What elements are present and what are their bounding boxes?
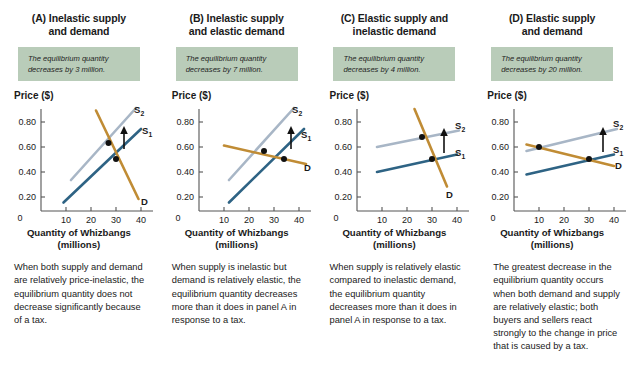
panel-c-equilibrium-before-tax <box>429 156 435 162</box>
panel-c-s2-sub: 2 <box>461 126 465 133</box>
panel-a-equilibrium-before-tax <box>113 156 119 162</box>
panel-a-title: (A) Inelastic supply and demand <box>24 12 134 38</box>
panel-c-s2-label: S <box>455 120 461 131</box>
panel-a-ytick-080: 0.80 <box>18 117 36 127</box>
panel-c-demand-label: D <box>446 189 453 200</box>
panel-b-xtick-30: 30 <box>269 215 279 225</box>
panel-c-ytick-060: 0.60 <box>334 142 352 152</box>
panel-a-origin-label: 0 <box>17 213 22 223</box>
panel-c-equilibrium-after-tax <box>419 134 425 140</box>
panel-a-s2-label: S <box>134 104 140 115</box>
panel-b-title-line1: (B) Inelastic supply <box>189 12 283 24</box>
panel-c-xtick-40: 40 <box>451 215 461 225</box>
panel-c-callout: The equilibrium quantity decreases by 4 … <box>333 47 455 81</box>
panel-a-ytick-040: 0.40 <box>18 167 36 177</box>
panel-b-ytick-020: 0.20 <box>176 192 194 202</box>
panel-a-xtick-30: 30 <box>111 215 121 225</box>
panel-c-callout-line2: decreases by 4 million. <box>343 65 420 74</box>
panel-b-ytick-040: 0.40 <box>176 167 194 177</box>
panel-c-s1-sub: 1 <box>461 153 465 160</box>
panel-d-ytick-040: 0.40 <box>492 167 510 177</box>
panel-a-xtick-20: 20 <box>86 215 96 225</box>
panel-d-plot: 0.80 0.60 0.40 0.20 0 10 20 30 40 <box>473 101 631 229</box>
panel-a-demand-curve <box>96 111 139 200</box>
panel-c-s1-label: S <box>455 147 461 158</box>
panel-b-callout-line1: The equilibrium quantity <box>186 54 267 63</box>
panel-c-demand-curve <box>414 109 447 187</box>
panel-d-y-axis-title: Price ($) <box>487 90 526 101</box>
panel-a-callout-line1: The equilibrium quantity <box>28 54 109 63</box>
panel-c-x-axis-title: Quantity of Whizbangs (millions) <box>316 227 474 251</box>
panel-b-x-axis-title: Quantity of Whizbangs (millions) <box>158 227 316 251</box>
panel-d-callout-line2: decreases by 20 million. <box>501 65 582 74</box>
panel-b-x-axis-line2: (millions) <box>215 239 258 250</box>
panel-c-supply-s2-curve <box>377 131 459 148</box>
panel-d-equilibrium-after-tax <box>536 144 542 150</box>
panel-b-s1-label: S <box>301 129 307 140</box>
panel-a-x-axis-title: Quantity of Whizbangs (millions) <box>0 227 158 251</box>
panel-a-equilibrium-after-tax <box>106 140 112 146</box>
panel-d-callout: The equilibrium quantity decreases by 20… <box>491 47 613 81</box>
panel-a-ytick-060: 0.60 <box>18 142 36 152</box>
panel-d-origin-label: 0 <box>491 213 496 223</box>
panel-a-plot: 0.80 0.60 0.40 0.20 0 10 20 <box>0 101 158 229</box>
panel-d-title: (D) Elastic supply and demand <box>501 12 603 38</box>
panel-c-callout-line1: The equilibrium quantity <box>343 54 424 63</box>
panel-c-xtick-30: 30 <box>426 215 436 225</box>
panel-a-title-line1: (A) Inelastic supply <box>32 12 126 24</box>
panel-c-xtick-20: 20 <box>401 215 411 225</box>
panel-a-shift-arrow-icon <box>120 126 128 149</box>
panel-d-s1-label: S <box>613 144 619 155</box>
panel-d-xtick-10: 10 <box>534 215 544 225</box>
panel-d: (D) Elastic supply and demand The equili… <box>473 0 631 381</box>
panel-a-title-line2: and demand <box>48 25 109 37</box>
panel-d-title-line2: and demand <box>522 25 583 37</box>
panel-c-ytick-020: 0.20 <box>334 192 352 202</box>
panel-c-x-axis-line2: (millions) <box>373 239 416 250</box>
panel-b-y-axis-title: Price ($) <box>172 90 211 101</box>
panel-c-caption: When supply is relatively elastic compar… <box>316 261 474 327</box>
panel-b-equilibrium-before-tax <box>281 156 287 162</box>
panel-d-xtick-40: 40 <box>609 215 619 225</box>
panel-d-caption: The greatest decrease in the equilibrium… <box>473 261 631 353</box>
panel-c-title: (C) Elastic supply and inelastic demand <box>333 12 457 38</box>
panel-a-s1-sub: 1 <box>149 131 153 138</box>
panel-d-ytick-060: 0.60 <box>492 142 510 152</box>
panel-b-origin-label: 0 <box>175 213 180 223</box>
panel-c-ytick-040: 0.40 <box>334 167 352 177</box>
panel-b-caption: When supply is inelastic but demand is r… <box>158 261 316 327</box>
panel-a-s2-sub: 2 <box>141 110 145 117</box>
panel-b-callout-line2: decreases by 7 million. <box>186 65 263 74</box>
panel-b-title-line2: and elastic demand <box>189 25 285 37</box>
panel-a-xtick-10: 10 <box>61 215 71 225</box>
panel-c-ytick-080: 0.80 <box>334 117 352 127</box>
panel-d-xtick-30: 30 <box>584 215 594 225</box>
panel-a-xtick-40: 40 <box>136 215 146 225</box>
panel-a-y-axis-title: Price ($) <box>14 90 53 101</box>
panel-d-s1-sub: 1 <box>620 150 624 157</box>
panel-b-s1-sub: 1 <box>307 135 311 142</box>
panel-c-plot: 0.80 0.60 0.40 0.20 0 10 20 30 40 <box>316 101 474 229</box>
panel-c-title-line1: (C) Elastic supply and <box>341 12 449 24</box>
panel-b-callout: The equilibrium quantity decreases by 7 … <box>176 47 298 81</box>
panel-c-origin-label: 0 <box>333 213 338 223</box>
panel-b-ytick-060: 0.60 <box>176 142 194 152</box>
panel-a-supply-s1-curve <box>64 129 142 203</box>
panel-b-demand-label: D <box>304 162 311 173</box>
panel-d-equilibrium-before-tax <box>586 156 592 162</box>
panel-c-xtick-10: 10 <box>376 215 386 225</box>
panel-a-s1-label: S <box>142 125 148 136</box>
panel-d-title-line1: (D) Elastic supply <box>509 12 595 24</box>
panel-d-ytick-080: 0.80 <box>492 117 510 127</box>
panel-b-xtick-10: 10 <box>219 215 229 225</box>
panel-a-callout-line2: decreases by 3 million. <box>28 65 105 74</box>
panel-d-x-axis-title: Quantity of Whizbangs (millions) <box>473 227 631 251</box>
panel-c-y-axis-title: Price ($) <box>330 90 369 101</box>
panel-b-equilibrium-after-tax <box>261 148 267 154</box>
panel-d-s2-label: S <box>613 118 619 129</box>
panel-a: (A) Inelastic supply and demand The equi… <box>0 0 158 381</box>
panel-a-caption: When both supply and demand are relative… <box>0 261 158 327</box>
panel-b-plot: 0.80 0.60 0.40 0.20 0 10 20 30 40 <box>158 101 316 229</box>
tax-elasticity-figure: (A) Inelastic supply and demand The equi… <box>0 0 631 381</box>
panel-b-ytick-080: 0.80 <box>176 117 194 127</box>
